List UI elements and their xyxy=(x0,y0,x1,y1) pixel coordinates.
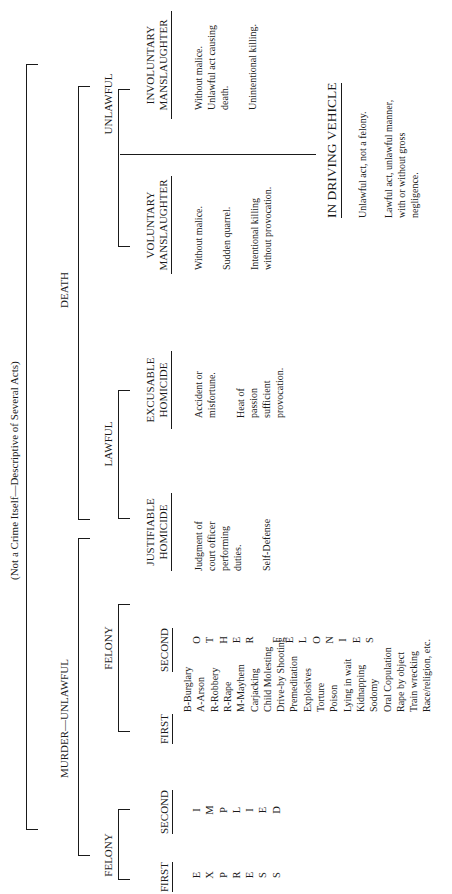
excusable-header: EXCUSABLE HOMICIDE xyxy=(144,351,172,429)
felony-right-bracket-left xyxy=(118,731,130,732)
justifiable-note-2: Self-Defense xyxy=(260,519,273,571)
first-degree-item: Carjacking xyxy=(249,668,261,712)
first-degree-item: Rape by object xyxy=(395,652,407,712)
felony-left-bracket xyxy=(118,810,119,880)
felony-right-label: FELONY xyxy=(102,618,115,678)
first-degree-item: A-Arson xyxy=(195,677,207,712)
murder-label: MURDER—UNLAWFUL xyxy=(58,659,71,778)
voluntary-header: VOLUNTARY MANSLAUGHTER xyxy=(144,176,172,274)
first-degree-item: Sodomy xyxy=(368,679,380,712)
first-degree-item: Explosives xyxy=(302,668,314,712)
first-degree-item: Lying in wait xyxy=(342,659,354,712)
lawful-bracket xyxy=(118,391,119,519)
bracket-top-right xyxy=(26,64,38,65)
excusable-note-2: Heat of passion sufficient provocation. xyxy=(234,368,286,418)
death-label: DEATH xyxy=(58,272,71,308)
felony-right-second-header: SECOND xyxy=(158,628,173,672)
involuntary-header: INVOLUNTARY MANSLAUGHTER xyxy=(144,11,172,119)
first-degree-item: Race/religion, etc. xyxy=(421,639,433,712)
first-degree-item: Poison xyxy=(328,685,340,712)
justifiable-note-1: Judgment of court officer performing dut… xyxy=(192,521,244,571)
voluntary-note-1: Without malice. xyxy=(192,206,205,270)
bracket-top xyxy=(26,65,27,830)
vehicle-note-1: Unlawful act, not a felony. xyxy=(356,111,369,218)
death-bracket-right xyxy=(78,86,90,87)
felony-left-second-header: SECOND xyxy=(158,790,173,834)
excusable-note-1: Accident or misfortune. xyxy=(192,371,218,418)
first-degree-item: Train wrecking xyxy=(408,651,420,712)
first-degree-item: R-Robbery xyxy=(209,668,221,712)
lawful-bracket-left xyxy=(118,518,130,519)
first-degree-item: B-Burglary xyxy=(182,667,194,712)
murder-bracket-left xyxy=(78,855,90,856)
murder-bracket xyxy=(78,539,79,856)
unlawful-label: UNLAWFUL xyxy=(102,69,115,139)
first-degree-item: Oral Copulation xyxy=(382,647,394,712)
felony-right-bracket xyxy=(118,605,119,732)
first-degree-felony-list: B-BurglaryA-ArsonR-RobberyR-RapeM-Mayhem… xyxy=(182,612,452,894)
bracket-top-left xyxy=(26,829,38,830)
felony-left-label: FELONY xyxy=(102,830,115,880)
justifiable-header: JUSTIFIABLE HOMICIDE xyxy=(144,493,172,571)
unlawful-bracket-right xyxy=(118,89,130,90)
death-bracket xyxy=(78,87,79,520)
unlawful-bracket xyxy=(118,90,119,247)
diagram-title: (Not a Crime Itself—Descriptive of Sever… xyxy=(8,361,21,580)
first-degree-item: Kidnapping xyxy=(355,665,367,712)
felony-right-first-header: FIRST xyxy=(158,714,173,744)
felony-right-bracket-right xyxy=(118,604,130,605)
felony-left-bracket-right xyxy=(118,809,130,810)
voluntary-note-2: Sudden quarrel. xyxy=(220,207,233,270)
felony-left-first-header: FIRST xyxy=(158,862,173,892)
first-degree-item: Premeditation xyxy=(288,656,300,712)
lawful-label: LAWFUL xyxy=(102,414,115,474)
unlawful-vehicle-stem xyxy=(120,154,316,155)
first-degree-item: Child Molesting xyxy=(262,647,274,712)
first-degree-item: Drive-by Shooting xyxy=(275,637,287,712)
vehicle-header: IN DRIVING VEHICLE xyxy=(324,83,342,218)
lawful-bracket-right xyxy=(118,390,130,391)
first-degree-item: M-Mayhem xyxy=(235,664,247,712)
involuntary-note-1: Without malice. Unlawful act causing dea… xyxy=(192,25,231,110)
vehicle-note-2: Lawful act, unlawful manner, with or wit… xyxy=(382,100,421,218)
murder-bracket-right xyxy=(78,538,90,539)
death-bracket-left xyxy=(78,519,90,520)
felony-left-bracket-left xyxy=(118,879,130,880)
unlawful-bracket-left xyxy=(118,246,130,247)
involuntary-note-2: Unintentional killing. xyxy=(246,24,259,110)
first-degree-item: Torture xyxy=(315,683,327,712)
voluntary-note-3: Intentional killing without provocation. xyxy=(248,187,274,270)
first-degree-item: R-Rape xyxy=(222,681,234,712)
